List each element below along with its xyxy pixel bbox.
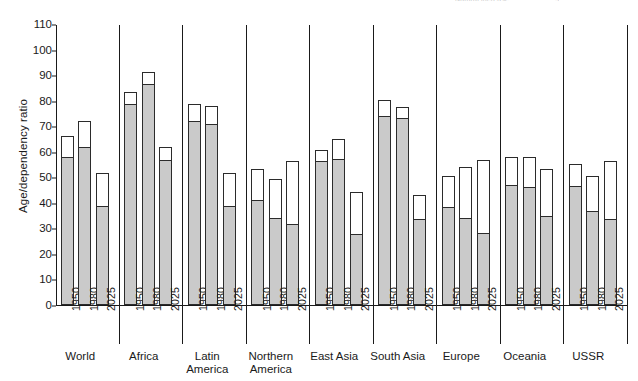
bar-shaded-segment: [379, 116, 390, 305]
y-tick-label: 70: [8, 121, 52, 133]
bar-shaded-segment: [160, 160, 171, 305]
x-axis-group-label: Latin America: [175, 350, 241, 375]
x-axis-group-label: South Asia: [365, 350, 431, 363]
bar: [396, 107, 409, 306]
y-tick-label: 100: [8, 45, 52, 57]
group-separator: [182, 25, 183, 344]
bar: [61, 136, 74, 306]
x-tick-label-year: 2025: [297, 287, 308, 311]
bar: [332, 139, 345, 306]
x-tick-label-year: 2025: [424, 287, 435, 311]
bar: [477, 160, 490, 306]
x-tick-label-year: 2025: [360, 287, 371, 311]
bar: [505, 157, 518, 305]
y-tick-label: 60: [8, 147, 52, 159]
group-separator: [119, 25, 120, 344]
y-tick-label: 20: [8, 249, 52, 261]
x-tick-label-year: 2025: [614, 287, 625, 311]
x-axis-group-label: World: [48, 350, 114, 363]
bar: [540, 169, 553, 306]
y-tick-label: 0: [8, 300, 52, 312]
bar: [315, 150, 328, 306]
bar: [78, 121, 91, 305]
group-separator: [246, 25, 247, 344]
y-tick-label: 40: [8, 198, 52, 210]
chart-figure: Natural increase9 Age/dependency ratio 0…: [0, 0, 638, 381]
bar: [378, 100, 391, 306]
bar: [205, 106, 218, 306]
x-tick-label-year: 2025: [487, 287, 498, 311]
page-running-header: Natural increase9: [455, 0, 559, 1]
bar: [223, 173, 236, 305]
bar-shaded-segment: [333, 159, 344, 305]
bar: [286, 161, 299, 305]
bar: [251, 169, 264, 306]
x-tick-label-year: 2025: [233, 287, 244, 311]
y-tick-label: 90: [8, 70, 52, 82]
group-separator: [500, 25, 501, 344]
bar-shaded-segment: [79, 147, 90, 304]
running-header-text: Natural increase: [455, 0, 509, 1]
bar-shaded-segment: [316, 161, 327, 305]
x-axis-group-label: Europe: [429, 350, 495, 363]
group-separator: [563, 25, 564, 344]
bar: [604, 161, 617, 305]
y-tick-label: 110: [8, 19, 52, 31]
y-tick-label: 10: [8, 274, 52, 286]
group-separator: [436, 25, 437, 344]
bar-shaded-segment: [62, 157, 73, 304]
bar-shaded-segment: [189, 121, 200, 305]
group-separator: [373, 25, 374, 344]
group-separator: [309, 25, 310, 344]
y-tick-label: 30: [8, 223, 52, 235]
x-tick-label-year: 2025: [106, 287, 117, 311]
bar-shaded-segment: [143, 84, 154, 304]
x-axis-group-label: Africa: [111, 350, 177, 363]
x-axis-group-label: East Asia: [302, 350, 368, 363]
bar: [124, 92, 137, 306]
bar: [569, 164, 582, 306]
y-tick-label: 80: [8, 96, 52, 108]
page-number: 9: [555, 0, 559, 1]
bar: [96, 173, 109, 305]
bar-shaded-segment: [397, 118, 408, 305]
bar-shaded-segment: [125, 104, 136, 304]
y-tick-label: 50: [8, 172, 52, 184]
bar: [188, 104, 201, 306]
x-tick-label-year: 2025: [551, 287, 562, 311]
group-separator: [627, 25, 628, 344]
x-axis-group-label: Oceania: [492, 350, 558, 363]
x-tick-label-year: 2025: [170, 287, 181, 311]
x-axis-group-label: Northern America: [238, 350, 304, 375]
y-axis-tick-labels: 0102030405060708090100110: [0, 0, 52, 381]
bar: [459, 167, 472, 306]
bar: [159, 147, 172, 306]
y-axis-line: [56, 25, 57, 306]
bar: [523, 157, 536, 305]
x-axis-group-label: USSR: [556, 350, 622, 363]
bar: [142, 72, 155, 306]
bar-shaded-segment: [206, 124, 217, 304]
